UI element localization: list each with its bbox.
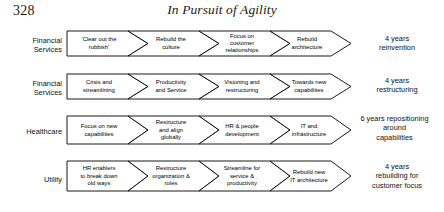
row-label-2: Financial Services	[6, 79, 62, 97]
flow-row: Utility HR enablers to break down old wa…	[0, 157, 444, 203]
flow-row: Financial Services 'Clear out the rubbis…	[0, 26, 444, 72]
flow-row: Healthcare Focus on new capabilities Res…	[0, 112, 444, 158]
stage-text: Focus on new	[81, 123, 118, 129]
stage-text: Restructure	[156, 165, 187, 171]
stage-text: culture	[162, 44, 180, 50]
chevron-chain-2: Crisis and streamlining Productivity and…	[66, 69, 356, 105]
stage-text: Visioning and	[224, 79, 259, 85]
row-label-line-1: Utility	[6, 175, 62, 184]
outcome-line: reinvention	[352, 43, 442, 52]
stage-text: Rebuild the	[156, 36, 187, 42]
stage-text: to break down	[80, 173, 117, 179]
row-label-line-2: Services	[6, 88, 62, 97]
stage-text: rubbish'	[89, 44, 109, 50]
outcome-line: 4 years	[352, 76, 442, 85]
stage-text: Streamline for	[224, 165, 261, 171]
outcome-line: 4 years	[352, 34, 442, 43]
row-label-3: Healthcare	[6, 127, 62, 136]
page-header: 328 In Pursuit of Agility	[0, 0, 444, 24]
chevron-chain-4: HR enablers to break down old ways Restr…	[66, 157, 356, 201]
flow-row: Financial Services Crisis and streamlini…	[0, 69, 444, 115]
running-head-title: In Pursuit of Agility	[0, 2, 444, 18]
stage-text: capabilities	[84, 131, 113, 137]
row-label-line-1: Financial	[6, 36, 62, 45]
outcome-line: capabilities	[345, 133, 444, 142]
stage-text: Focus on	[230, 33, 254, 39]
stage-text: relationships	[225, 47, 258, 53]
stage-text: and Service	[155, 87, 187, 93]
stage-text: IT architecture	[290, 177, 328, 183]
chevron-chain-1: 'Clear out the rubbish' Rebuild the cult…	[66, 26, 356, 62]
stage-text: infrastructure	[292, 131, 327, 137]
stage-text: development	[225, 131, 259, 137]
row-outcome-4: 4 years rebuilding for customer focus	[352, 162, 442, 190]
row-label-line-1: Healthcare	[6, 127, 62, 136]
outcome-line: 6 years repositioning	[345, 114, 444, 123]
stage-text: capabilities	[294, 87, 323, 93]
stage-text: productivity	[227, 180, 257, 186]
stage-text: architecture	[292, 44, 324, 50]
stage-text: HR & people	[225, 123, 259, 129]
stage-text: organization &	[152, 173, 190, 179]
stage-text: Restructure	[156, 119, 187, 125]
stage-text: old ways	[88, 180, 111, 186]
row-outcome-3: 6 years repositioning around capabilitie…	[345, 114, 444, 142]
row-label-line-1: Financial	[6, 79, 62, 88]
outcome-line: 4 years	[352, 162, 442, 171]
stage-text: customer	[230, 40, 254, 46]
row-outcome-2: 4 years restructuring	[352, 76, 442, 95]
row-outcome-1: 4 years reinvention	[352, 34, 442, 53]
stage-text: roles	[165, 180, 178, 186]
stage-text: streamlining	[83, 87, 115, 93]
stage-text: Towards new	[292, 79, 327, 85]
stage-text: globally	[161, 134, 181, 140]
stage-text: service &	[230, 173, 254, 179]
stage-text: and align	[159, 127, 183, 133]
outcome-line: around	[345, 123, 444, 132]
stage-text: Rebuild new	[293, 169, 326, 175]
stage-text: Productivity	[156, 79, 187, 85]
row-label-1: Financial Services	[6, 36, 62, 54]
stage-text: HR enablers	[83, 165, 116, 171]
row-label-4: Utility	[6, 175, 62, 184]
row-label-line-2: Services	[6, 45, 62, 54]
process-flow-figure: Financial Services 'Clear out the rubbis…	[0, 24, 444, 212]
outcome-line: rebuilding for	[352, 171, 442, 180]
outcome-line: restructuring	[352, 85, 442, 94]
outcome-line: customer focus	[352, 181, 442, 190]
stage-text: IT and	[301, 123, 318, 129]
stage-text: restructuring	[226, 87, 259, 93]
chevron-chain-3: Focus on new capabilities Restructure an…	[66, 112, 356, 152]
stage-text: Crisis and	[86, 79, 112, 85]
stage-text: Rebuild	[297, 36, 317, 42]
stage-text: 'Clear out the	[82, 36, 118, 42]
